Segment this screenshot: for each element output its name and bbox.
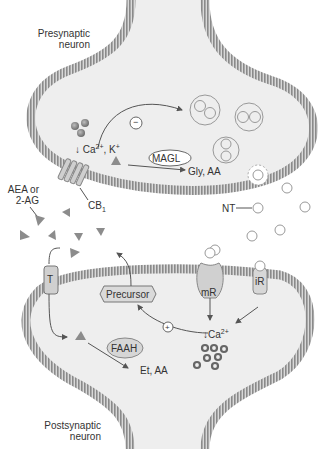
post-ca-text: Ca [208,329,221,340]
precursor-label: Precursor [106,289,149,300]
ca-text: Ca [83,144,96,155]
postsynaptic-label-line2: neuron [35,431,101,442]
endocannabinoid-molecules [20,208,105,258]
presynaptic-label: Presynaptic neuron [35,28,90,50]
ca-charge: 2+ [96,143,104,150]
synapse-diagram: Presynaptic neuron ↓ Ca2+, K+ − MAGL Gly… [0,0,333,449]
faah-label: FAAH [111,343,137,354]
cb1-subscript: 1 [102,206,106,213]
transporter-label: T [47,274,53,285]
magl-label: MAGL [152,153,180,164]
post-ca-charge: 2+ [221,328,229,335]
inhibit-sign: − [133,117,138,128]
presynaptic-label-line1: Presynaptic [35,28,90,39]
nt-label: NT [222,203,235,214]
presynaptic-label-line2: neuron [35,39,90,50]
post-ca-label: ↓Ca2+ [203,326,229,340]
aea-label: AEA or 2-AG [3,184,39,206]
faah-products-label: Et, AA [140,365,168,376]
k-text: , K [104,144,116,155]
diagram-canvas [0,0,333,449]
aea-label-line1: AEA or [3,184,39,195]
down-arrow-icon: ↓ [75,144,80,155]
postsynaptic-label-line1: Postsynaptic [35,420,101,431]
cb1-text: CB [88,200,102,211]
ir-label: iR [255,276,264,287]
aea-label-line2: 2-AG [3,195,39,206]
k-charge: + [116,143,120,150]
mr-label: mR [201,287,217,298]
ca-k-label: ↓ Ca2+, K+ [75,141,120,155]
cb1-label: CB1 [88,200,106,215]
postsynaptic-label: Postsynaptic neuron [35,420,101,442]
stimulate-sign: + [165,322,170,333]
magl-products-label: Gly, AA [188,166,221,177]
neurotransmitter-particles [210,183,310,255]
